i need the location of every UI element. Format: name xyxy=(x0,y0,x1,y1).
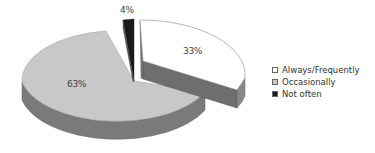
legend: Always/Frequently Occasionally Not often xyxy=(272,64,360,100)
label-always-frequently: 33% xyxy=(183,46,202,56)
legend-swatch-white xyxy=(272,67,278,73)
legend-item-always-frequently: Always/Frequently xyxy=(272,64,360,75)
legend-swatch-gray xyxy=(272,79,278,85)
legend-label: Always/Frequently xyxy=(282,65,360,75)
legend-label: Not often xyxy=(282,89,322,99)
label-not-often: 4% xyxy=(120,5,134,15)
legend-item-not-often: Not often xyxy=(272,88,360,99)
legend-item-occasionally: Occasionally xyxy=(272,76,360,87)
legend-swatch-black xyxy=(272,91,278,97)
label-occasionally: 63% xyxy=(67,79,86,89)
legend-label: Occasionally xyxy=(282,77,336,87)
